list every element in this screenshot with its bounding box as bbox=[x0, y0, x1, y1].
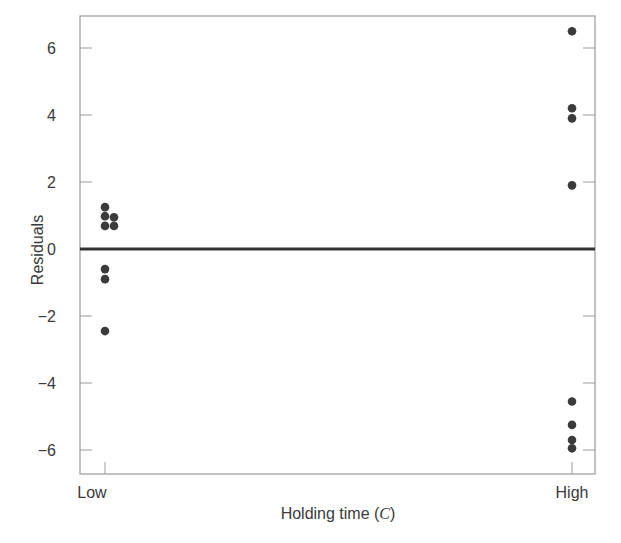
data-point-low bbox=[101, 222, 110, 231]
x-tick-label-low: Low bbox=[77, 484, 107, 501]
y-tick-label: −4 bbox=[38, 375, 56, 392]
x-axis-title-suffix: ) bbox=[390, 505, 395, 522]
residual-plot: 6420−2−4−6 LowHigh Residuals Holding tim… bbox=[0, 0, 621, 543]
data-point-low bbox=[110, 213, 119, 222]
data-point-high bbox=[568, 104, 577, 113]
data-point-high bbox=[568, 114, 577, 123]
data-point-high bbox=[568, 397, 577, 406]
data-point-low bbox=[110, 222, 119, 231]
x-axis-title-prefix: Holding time ( bbox=[281, 505, 380, 522]
plot-frame bbox=[80, 16, 595, 474]
data-point-high bbox=[568, 436, 577, 445]
y-axis-title: Residuals bbox=[29, 215, 46, 285]
y-tick-label: 4 bbox=[47, 107, 56, 124]
x-axis-title: Holding time (C) bbox=[281, 505, 396, 522]
x-axis: LowHigh bbox=[77, 462, 588, 501]
data-point-low bbox=[101, 212, 110, 221]
x-axis-title-variable: C bbox=[379, 505, 390, 522]
data-point-high bbox=[568, 181, 577, 190]
y-tick-label: 6 bbox=[47, 40, 56, 57]
data-point-low bbox=[101, 265, 110, 274]
y-tick-label: −6 bbox=[38, 442, 56, 459]
x-tick-label-high: High bbox=[556, 484, 589, 501]
data-point-high bbox=[568, 27, 577, 36]
data-point-low bbox=[101, 275, 110, 284]
y-tick-label: −2 bbox=[38, 308, 56, 325]
data-point-high bbox=[568, 421, 577, 430]
data-point-high bbox=[568, 444, 577, 453]
y-tick-label: 0 bbox=[47, 241, 56, 258]
data-point-low bbox=[101, 203, 110, 212]
data-points bbox=[101, 27, 577, 453]
data-point-low bbox=[101, 327, 110, 336]
y-tick-label: 2 bbox=[47, 174, 56, 191]
